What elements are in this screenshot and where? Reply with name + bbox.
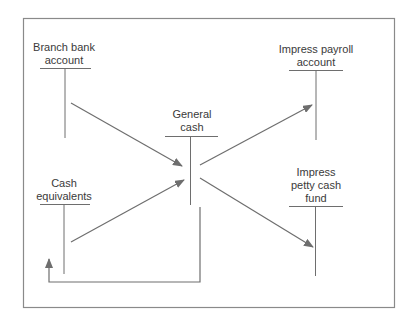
arrow-general-to-equivalents xyxy=(49,207,200,282)
label-impress-petty-cash-fund: Impress petty cash fund xyxy=(291,166,341,205)
label-line: cash xyxy=(172,121,211,134)
arrow-general-to-payroll xyxy=(200,105,312,165)
label-line: account xyxy=(33,54,95,67)
t-account-cash-equivalents xyxy=(40,205,90,275)
label-impress-payroll-account: Impress payroll account xyxy=(279,43,354,69)
t-account-general-cash xyxy=(165,137,218,206)
arrow-branch-to-general xyxy=(71,103,182,166)
label-general-cash: General cash xyxy=(172,108,211,134)
label-line: Impress payroll xyxy=(279,43,354,56)
label-line: equivalents xyxy=(36,190,92,203)
label-line: fund xyxy=(291,192,341,205)
t-account-impress-payroll xyxy=(289,71,343,141)
label-branch-bank-account: Branch bank account xyxy=(33,41,95,67)
label-line: Cash xyxy=(36,177,92,190)
label-line: account xyxy=(279,56,354,69)
label-line: Impress xyxy=(291,166,341,179)
label-line: General xyxy=(172,108,211,121)
label-line: Branch bank xyxy=(33,41,95,54)
t-account-branch-bank xyxy=(40,69,91,139)
t-account-impress-petty-cash xyxy=(289,207,343,277)
label-line: petty cash xyxy=(291,179,341,192)
label-cash-equivalents: Cash equivalents xyxy=(36,177,92,203)
